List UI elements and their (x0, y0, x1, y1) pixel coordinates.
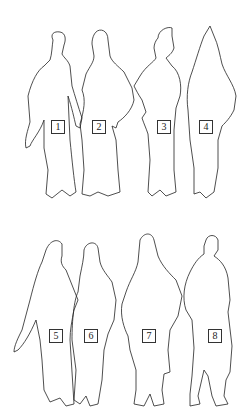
figure-label-8: 8 (208, 329, 222, 343)
silhouette-figures (0, 0, 251, 410)
silhouette-2 (80, 30, 134, 196)
silhouette-6 (72, 243, 116, 406)
silhouette-1 (25, 32, 82, 198)
silhouette-5 (14, 241, 78, 406)
figure-label-5: 5 (49, 329, 63, 343)
figure-label-3: 3 (157, 120, 171, 134)
silhouette-4 (187, 26, 236, 198)
figure-label-1: 1 (51, 120, 65, 134)
figure-label-2: 2 (92, 120, 106, 134)
figure-label-7: 7 (142, 329, 156, 343)
silhouette-8 (184, 236, 232, 407)
figure-label-4: 4 (199, 120, 213, 134)
silhouette-3 (134, 27, 181, 196)
silhouette-7 (121, 234, 182, 406)
figure-label-6: 6 (84, 329, 98, 343)
